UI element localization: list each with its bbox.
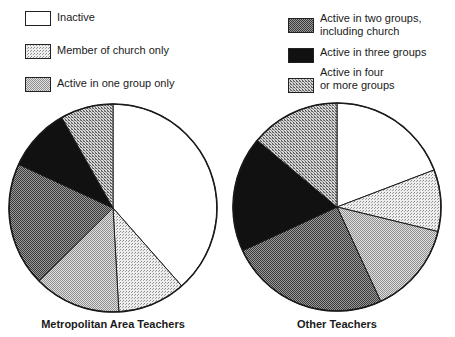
legend-item-two-groups: Active in two groups, including church [288, 18, 422, 38]
legend-label: Member of church only [57, 44, 169, 57]
legend-item-four-plus: Active in four or more groups [288, 78, 395, 93]
pie-title-metropolitan: Metropolitan Area Teachers [13, 318, 213, 330]
legend-swatch [25, 11, 51, 26]
legend-swatch [25, 77, 51, 92]
legend-label: Active in one group only [57, 77, 174, 90]
legend-swatch [288, 18, 314, 33]
legend-label: Active in four or more groups [320, 66, 395, 92]
legend-item-inactive: Inactive [25, 11, 95, 26]
pie-title-other: Other Teachers [237, 318, 437, 330]
legend-swatch [288, 78, 314, 93]
legend-swatch [25, 44, 51, 59]
legend-item-one-group: Active in one group only [25, 77, 174, 92]
legend-item-church-only: Member of church only [25, 44, 169, 59]
pie-metropolitan-area-teachers [9, 104, 217, 312]
legend-label: Active in two groups, including church [320, 12, 422, 38]
legend-label: Active in three groups [320, 46, 426, 59]
legend-swatch [288, 48, 314, 63]
legend-label: Inactive [57, 11, 95, 24]
pie-other-teachers [233, 103, 441, 311]
legend-item-three-groups: Active in three groups [288, 48, 426, 63]
